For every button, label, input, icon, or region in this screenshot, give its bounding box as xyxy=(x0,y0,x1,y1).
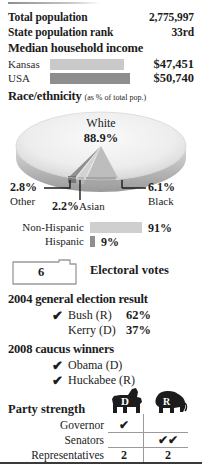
race-ethnicity-heading: Race/ethnicity (as % of total pop.) xyxy=(0,89,202,104)
income-bar-usa xyxy=(50,73,130,84)
candidate-name: Huckabee (R) xyxy=(68,373,135,388)
caucus-2008-heading: 2008 caucus winners xyxy=(0,342,202,357)
income-row-label: USA xyxy=(8,72,30,84)
income-bar-kansas xyxy=(50,59,124,70)
stat-row-population-rank: State population rank 33rd xyxy=(0,26,202,41)
callout-name: Black xyxy=(148,195,175,207)
party-cell-dem-governor: ✔ xyxy=(108,418,140,433)
party-strength-section: D R Party strength Governor ✔ Senators ✔… xyxy=(0,388,202,460)
winner-check-icon: ✔ xyxy=(52,308,63,324)
callout-name: Other xyxy=(10,195,37,207)
income-amount: $50,740 xyxy=(153,71,194,86)
callout-black: 6.1% Black xyxy=(148,180,175,207)
candidate-name: Obama (D) xyxy=(68,358,122,373)
electoral-votes-section: 6 Electoral votes xyxy=(0,259,202,287)
republican-elephant-icon: R xyxy=(152,390,188,416)
winner-check-icon: ✔ xyxy=(52,358,63,374)
hispanic-pct: 9% xyxy=(101,235,119,250)
electoral-votes-label: Electoral votes xyxy=(90,263,169,278)
party-row-label-governor: Governor xyxy=(0,419,104,431)
electoral-votes-count: 6 xyxy=(12,259,70,285)
income-row-label: Kansas xyxy=(8,58,40,70)
callout-name: Asian xyxy=(79,200,105,212)
hispanic-row-non-hispanic: Non-Hispanic 91% xyxy=(0,221,202,234)
hispanic-row-hispanic: Hispanic 9% xyxy=(0,235,202,248)
pie-center-name: White xyxy=(0,116,202,131)
bottom-divider xyxy=(0,462,202,464)
party-table-vertical-divider xyxy=(143,414,144,462)
pie-callouts: 2.8% Other 2.2%Asian 6.1% Black xyxy=(0,180,202,220)
income-row-usa: USA $50,740 xyxy=(0,72,202,85)
callout-asian: 2.2%Asian xyxy=(52,196,105,214)
hispanic-row-label: Non-Hispanic xyxy=(0,221,84,233)
income-amount: $47,451 xyxy=(153,57,194,72)
race-heading-subtext: (as % of total pop.) xyxy=(85,93,147,102)
party-cell-dem-representatives: 2 xyxy=(108,448,140,463)
median-income-heading: Median household income xyxy=(0,41,202,56)
callout-pct: 6.1% xyxy=(148,180,175,195)
party-table-row-divider-2 xyxy=(108,447,188,448)
callout-pct: 2.2% xyxy=(52,199,79,213)
callout-pct: 2.8% xyxy=(10,180,37,195)
candidate-pct: 62% xyxy=(126,308,151,323)
candidate-pct: 37% xyxy=(126,323,151,338)
candidate-name: Kerry (D) xyxy=(68,323,116,338)
democrat-donkey-icon: D xyxy=(110,388,144,416)
party-row-label-senators: Senators xyxy=(0,434,104,446)
election-2004-heading: 2004 general election result xyxy=(0,292,202,307)
party-strength-label: Party strength xyxy=(8,402,85,417)
party-row-label-representatives: Representatives xyxy=(0,449,104,461)
party-cell-rep-senators: ✔✔ xyxy=(148,433,188,448)
winner-check-icon: ✔ xyxy=(52,373,63,389)
stat-row-total-population: Total population 2,775,997 xyxy=(0,11,202,26)
hispanic-pct: 91% xyxy=(148,221,172,236)
caucus-2008-row-huckabee: ✔ Huckabee (R) xyxy=(0,373,202,388)
hispanic-row-label: Hispanic xyxy=(0,235,84,247)
stat-value: 2,775,997 xyxy=(149,11,194,23)
party-table-row-divider-1 xyxy=(108,432,188,433)
race-heading-text: Race/ethnicity xyxy=(8,89,82,103)
hispanic-bar-hispanic xyxy=(90,236,95,247)
stat-value: 33rd xyxy=(171,26,194,38)
hispanic-bar-non-hispanic xyxy=(90,222,142,233)
race-pie-chart: White 88.9% xyxy=(0,104,202,192)
pie-center-value: 88.9% xyxy=(0,131,202,146)
election-2004-row-bush: ✔ Bush (R) 62% xyxy=(0,308,202,323)
top-divider xyxy=(8,2,100,4)
donkey-letter: D xyxy=(121,395,129,407)
stat-label: Total population xyxy=(0,11,87,23)
elephant-letter: R xyxy=(163,396,171,407)
state-fact-box: Total population 2,775,997 State populat… xyxy=(0,0,202,466)
stat-label: State population rank xyxy=(0,26,113,38)
pie-center-label: White 88.9% xyxy=(0,116,202,146)
party-cell-rep-representatives: 2 xyxy=(148,448,188,463)
election-2004-row-kerry: Kerry (D) 37% xyxy=(0,323,202,338)
caucus-2008-row-obama: ✔ Obama (D) xyxy=(0,358,202,373)
callout-other: 2.8% Other xyxy=(10,180,37,207)
candidate-name: Bush (R) xyxy=(68,308,112,323)
income-row-kansas: Kansas $47,451 xyxy=(0,58,202,71)
